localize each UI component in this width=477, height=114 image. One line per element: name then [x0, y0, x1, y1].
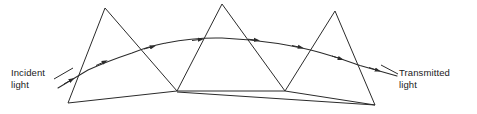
light-ray-path — [58, 38, 397, 88]
ray-arrow-8 — [369, 68, 378, 71]
incident-light-label: Incident light — [11, 67, 45, 90]
prism-3 — [285, 11, 375, 105]
diagram-canvas — [0, 0, 477, 114]
base-line-group — [177, 92, 375, 105]
leader-line-group — [54, 65, 398, 79]
transmitted-light-label-line2: light — [399, 79, 450, 91]
leader-line-incident — [54, 68, 73, 79]
incident-light-label-line2: light — [11, 79, 45, 91]
prism-1 — [68, 8, 177, 103]
incident-light-label-line1: Incident — [11, 67, 45, 78]
light-ray-group — [58, 38, 397, 88]
ray-direction-arrow-group — [64, 39, 378, 84]
transmitted-light-label: Transmitted light — [399, 67, 450, 90]
transmitted-light-label-line1: Transmitted — [399, 67, 450, 78]
ray-arrow-7 — [332, 56, 341, 59]
prism-group — [68, 4, 375, 105]
optics-prism-diagram: Incident light Transmitted light — [0, 0, 477, 114]
prism-2 — [177, 4, 285, 91]
base-line-chord — [177, 92, 375, 105]
ray-arrow-1 — [64, 80, 72, 85]
